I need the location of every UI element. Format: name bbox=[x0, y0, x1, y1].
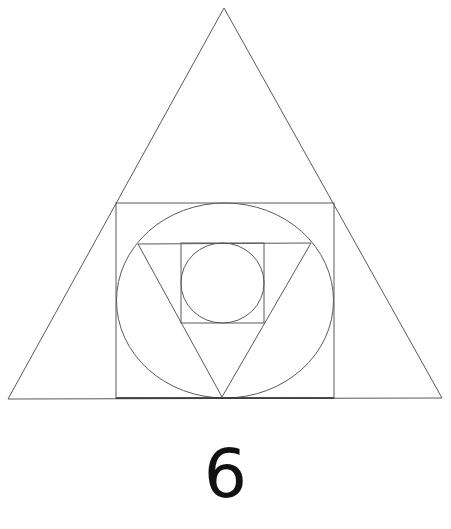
inner-inverted-triangle bbox=[138, 243, 311, 397]
outer-square bbox=[116, 203, 334, 398]
figure-number-label: 6 bbox=[0, 436, 451, 512]
outer-ellipse bbox=[117, 203, 334, 398]
inner-circle bbox=[181, 243, 264, 323]
